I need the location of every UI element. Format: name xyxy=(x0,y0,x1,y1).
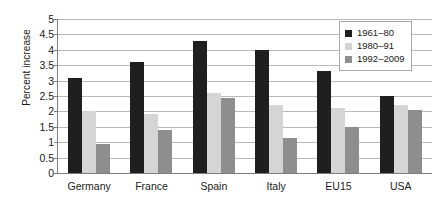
y-axis-tick-label: 2 xyxy=(48,106,54,117)
y-axis-tick-label: 1 xyxy=(48,137,54,148)
bar xyxy=(221,98,235,173)
y-axis-tick-label: 5 xyxy=(48,14,54,25)
bar xyxy=(130,62,144,173)
bar xyxy=(207,93,221,173)
bar xyxy=(68,78,82,173)
y-axis-tick-label: 0.5 xyxy=(39,152,54,163)
bar xyxy=(82,111,96,173)
bar xyxy=(269,105,283,173)
legend-swatch-icon xyxy=(345,30,352,37)
legend-swatch-icon xyxy=(345,43,352,50)
legend-label: 1980–91 xyxy=(357,41,394,51)
x-axis-tick-label: EU15 xyxy=(307,180,369,192)
bar xyxy=(408,110,422,173)
bar xyxy=(394,105,408,173)
bar xyxy=(193,41,207,173)
bar xyxy=(331,108,345,173)
legend-item: 1992–2009 xyxy=(345,53,405,65)
bar xyxy=(158,130,172,173)
bar xyxy=(345,127,359,173)
bar xyxy=(380,96,394,173)
bar xyxy=(255,50,269,173)
legend-item: 1980–91 xyxy=(345,40,405,52)
legend: 1961–801980–911992–2009 xyxy=(339,21,412,71)
bar xyxy=(283,138,297,173)
bar xyxy=(317,71,331,173)
legend-label: 1961–80 xyxy=(357,28,394,38)
bar-group: Spain xyxy=(183,19,245,173)
x-axis-tick-label: USA xyxy=(370,180,432,192)
x-axis-tick-label: France xyxy=(120,180,182,192)
y-axis-tick-label: 4.5 xyxy=(39,29,54,40)
bar-chart: Percent increase 54.543.532.521.510.50 G… xyxy=(0,0,441,202)
bar xyxy=(96,144,110,173)
y-axis-tick-label: 4 xyxy=(48,45,54,56)
legend-swatch-icon xyxy=(345,56,352,63)
bar xyxy=(144,114,158,173)
x-axis-tick-label: Italy xyxy=(245,180,307,192)
bar-group: Italy xyxy=(245,19,307,173)
y-tick-mark xyxy=(54,173,58,174)
bar-group: France xyxy=(120,19,182,173)
bar-group: Germany xyxy=(58,19,120,173)
x-axis-tick-label: Spain xyxy=(183,180,245,192)
y-axis-tick-label: 3 xyxy=(48,75,54,86)
y-axis-tick-label: 0 xyxy=(48,168,54,179)
legend-label: 1992–2009 xyxy=(357,54,405,64)
x-axis-tick-label: Germany xyxy=(58,180,120,192)
y-axis-tick-label: 3.5 xyxy=(39,60,54,71)
y-axis-tick-label: 2.5 xyxy=(39,91,54,102)
legend-item: 1961–80 xyxy=(345,27,405,39)
y-axis-title: Percent increase xyxy=(21,0,32,138)
y-axis-tick-label: 1.5 xyxy=(39,122,54,133)
